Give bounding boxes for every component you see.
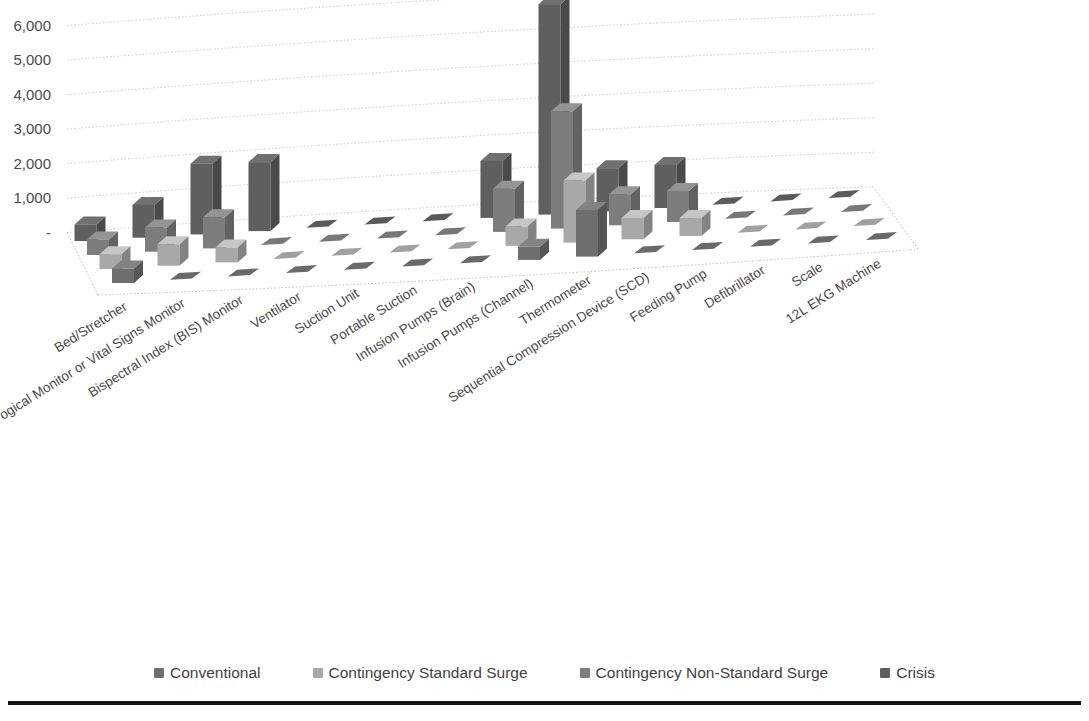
bar-zero — [692, 242, 723, 250]
x-axis-category-label: Sequential Compression Device (SCD) — [446, 269, 652, 405]
legend-swatch-icon — [880, 668, 890, 678]
bar-zero — [783, 207, 814, 215]
y-axis-tick-label: 5,000 — [13, 51, 51, 68]
bar-zero — [725, 211, 756, 219]
bar-zero — [274, 251, 305, 259]
bar-zero — [634, 245, 665, 253]
x-axis-category-label: Defibrillator — [702, 262, 768, 311]
bar-zero — [771, 193, 802, 201]
bar-zero — [286, 265, 317, 273]
chart-legend: ConventionalContingency Standard SurgeCo… — [0, 660, 1089, 686]
bar-zero — [854, 218, 885, 226]
grid-layer — [67, 0, 918, 295]
x-axis-category-label: 12L EKG Machine — [783, 256, 883, 327]
bar-zero — [738, 225, 769, 233]
legend-item[interactable]: Crisis — [880, 664, 935, 682]
bar-zero — [377, 231, 408, 239]
bar-zero — [796, 221, 827, 229]
y-axis-labels: -1,0002,0003,0004,0005,0006,0007,000 — [13, 0, 51, 241]
bar-zero — [319, 234, 350, 242]
bar-zero — [713, 197, 744, 205]
x-axis-category-label: ogical Monitor or Vital Signs Monitor — [0, 295, 188, 422]
three-d-bar-chart: -1,0002,0003,0004,0005,0006,0007,000 Bed… — [0, 0, 1089, 721]
chart-container: -1,0002,0003,0004,0005,0006,0007,000 Bed… — [0, 0, 1089, 721]
bar-zero — [448, 241, 479, 249]
bar-zero — [402, 259, 433, 267]
legend-item[interactable]: Contingency Non-Standard Surge — [580, 664, 829, 682]
bar-zero — [435, 227, 466, 235]
bar-zero — [170, 272, 201, 280]
legend-swatch-icon — [580, 668, 590, 678]
y-axis-tick-label: 1,000 — [13, 189, 51, 206]
bar-solid — [680, 210, 711, 236]
bar-zero — [808, 235, 839, 243]
bar-zero — [460, 255, 491, 263]
legend-item[interactable]: Contingency Standard Surge — [313, 664, 528, 682]
legend-label: Contingency Standard Surge — [329, 664, 528, 682]
y-axis-tick-label: 6,000 — [13, 17, 51, 34]
legend-label: Contingency Non-Standard Surge — [596, 664, 829, 682]
bar-solid — [249, 154, 280, 231]
legend-item[interactable]: Conventional — [154, 664, 260, 682]
bar-solid — [622, 210, 653, 239]
y-axis-tick-label: 4,000 — [13, 86, 51, 103]
bar-zero — [228, 268, 259, 276]
legend-label: Crisis — [896, 664, 935, 682]
legend-swatch-icon — [154, 668, 164, 678]
bar-solid — [576, 202, 607, 257]
bar-zero — [829, 190, 860, 198]
bar-zero — [390, 245, 421, 253]
bar-zero — [866, 232, 897, 240]
legend-swatch-icon — [313, 668, 323, 678]
bar-zero — [423, 213, 454, 221]
legend-label: Conventional — [170, 664, 260, 682]
bottom-divider — [8, 701, 1081, 705]
bar-zero — [365, 217, 396, 225]
bar-zero — [307, 220, 338, 228]
bar-zero — [261, 237, 292, 245]
y-axis-tick-label: - — [46, 224, 51, 241]
x-axis-category-label: Scale — [789, 259, 826, 290]
y-axis-tick-label: 2,000 — [13, 155, 51, 172]
bar-zero — [344, 262, 375, 270]
bar-zero — [841, 204, 872, 212]
bar-solid — [158, 236, 189, 265]
y-axis-tick-label: 3,000 — [13, 120, 51, 137]
bar-zero — [332, 248, 363, 256]
bars-layer — [75, 0, 898, 283]
bar-zero — [750, 239, 781, 247]
